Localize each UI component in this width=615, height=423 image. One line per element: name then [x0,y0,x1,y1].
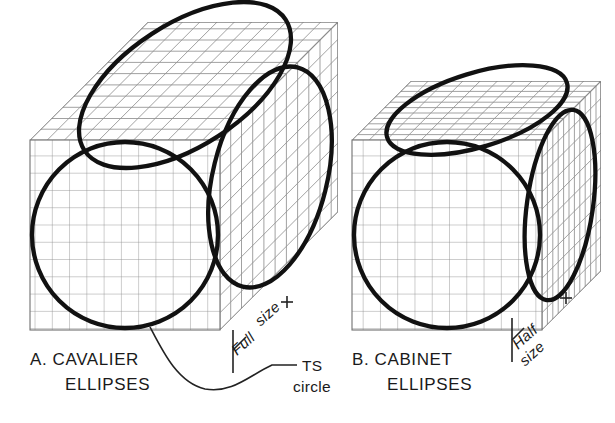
left-dimension-line2: size [251,298,283,329]
right-caption-line2: ELLIPSES [387,375,472,394]
ts-circle-label-line2: circle [293,378,331,395]
cabinet-box [352,47,606,330]
oblique-projection-diagram: A. CAVALIER ELLIPSES B. CABINET ELLIPSES… [0,0,615,423]
left-caption-line2: ELLIPSES [65,375,150,394]
cavalier-box [30,0,353,330]
left-caption-line1: A. CAVALIER [30,350,139,369]
technical-drawing-figure: A. CAVALIER ELLIPSES B. CABINET ELLIPSES… [0,0,615,423]
ts-circle-leader-line [150,327,297,390]
ts-circle-label-line1: TS [302,357,322,374]
right-caption-line1: B. CABINET [352,350,452,369]
